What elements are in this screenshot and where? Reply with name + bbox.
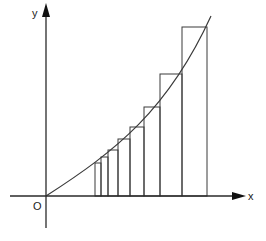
rectangle <box>182 27 207 196</box>
rectangle <box>160 74 182 196</box>
x-axis-arrow-icon <box>232 192 246 200</box>
rectangle <box>118 139 130 196</box>
function-curve <box>46 16 211 196</box>
origin-label: O <box>33 200 42 212</box>
rectangle <box>101 157 108 196</box>
y-axis-arrow-icon <box>42 3 50 17</box>
rectangle <box>95 163 101 196</box>
rectangle <box>108 150 118 196</box>
diagram-canvas: y x O <box>0 0 266 241</box>
x-axis-label: x <box>248 190 254 202</box>
y-axis-label: y <box>32 7 38 19</box>
rectangle <box>130 127 144 196</box>
rectangle <box>144 107 160 196</box>
